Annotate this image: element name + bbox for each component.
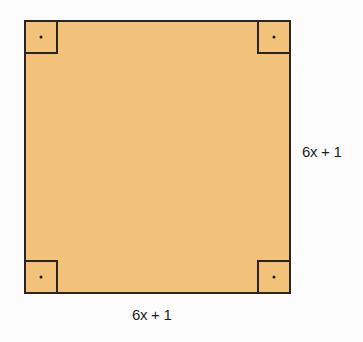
diagram-canvas: 6x + 1 6x + 1 bbox=[0, 0, 363, 342]
right-angle-dot-icon bbox=[273, 276, 276, 279]
right-angle-dot-icon bbox=[40, 36, 43, 39]
right-angle-marker-top-right bbox=[257, 22, 289, 54]
right-angle-dot-icon bbox=[273, 36, 276, 39]
right-angle-marker-bottom-left bbox=[26, 260, 58, 292]
right-angle-marker-top-left bbox=[26, 22, 58, 54]
bottom-side-label: 6x + 1 bbox=[132, 306, 171, 323]
right-angle-dot-icon bbox=[40, 276, 43, 279]
square-shape bbox=[24, 20, 291, 294]
right-angle-marker-bottom-right bbox=[257, 260, 289, 292]
right-side-label: 6x + 1 bbox=[302, 143, 341, 160]
